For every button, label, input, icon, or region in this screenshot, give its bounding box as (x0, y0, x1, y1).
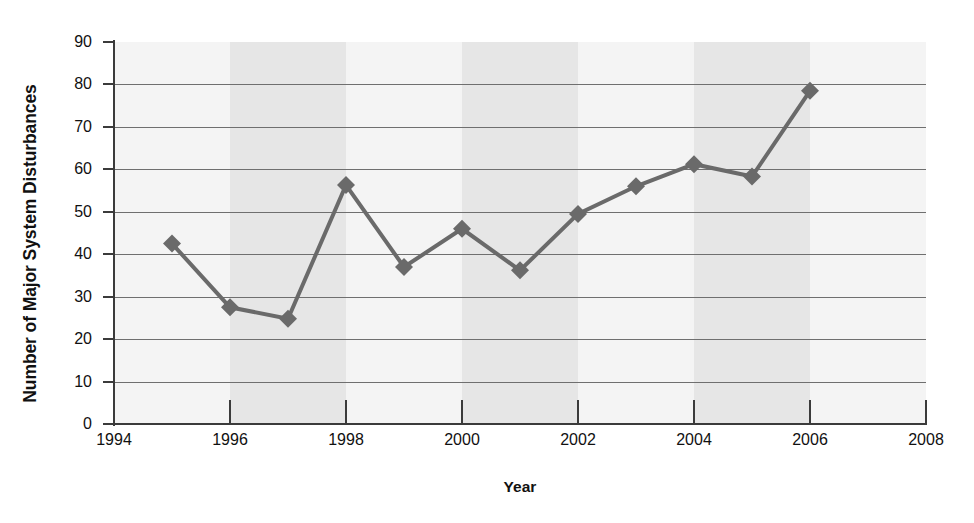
gridline (114, 297, 926, 298)
background-band (346, 42, 462, 424)
x-axis-tick (925, 400, 927, 425)
y-axis-tick (103, 338, 115, 340)
y-axis-tick (103, 83, 115, 85)
y-axis-tick-label: 50 (46, 204, 92, 220)
x-axis-tick-label: 2008 (891, 432, 961, 448)
background-band (810, 42, 926, 424)
gridline (114, 339, 926, 340)
y-axis-tick-label: 40 (46, 246, 92, 262)
y-axis-title: Number of Major System Disturbances (20, 44, 41, 444)
x-axis-tick-label: 2004 (659, 432, 729, 448)
x-axis-tick-label: 1996 (195, 432, 265, 448)
plot-area (114, 42, 926, 424)
x-axis-tick-label: 1998 (311, 432, 381, 448)
y-axis-tick (103, 381, 115, 383)
y-axis-tick (103, 211, 115, 213)
background-band (694, 42, 810, 424)
y-axis-tick-label: 90 (46, 34, 92, 50)
y-axis-tick-label: 70 (46, 119, 92, 135)
y-axis-tick (103, 296, 115, 298)
y-axis-tick-label: 10 (46, 374, 92, 390)
y-axis-tick (103, 168, 115, 170)
background-band (230, 42, 346, 424)
y-axis-tick (103, 41, 115, 43)
x-axis-tick-label: 1994 (79, 432, 149, 448)
y-axis-tick-label: 80 (46, 76, 92, 92)
x-axis-tick (229, 400, 231, 425)
gridline (114, 127, 926, 128)
x-axis-line (113, 423, 927, 425)
x-axis-tick (345, 400, 347, 425)
gridline (114, 382, 926, 383)
y-axis-tick-label: 0 (46, 416, 92, 432)
background-band (578, 42, 694, 424)
x-axis-title: Year (114, 478, 926, 496)
x-axis-tick (113, 400, 115, 425)
background-band (114, 42, 230, 424)
x-axis-tick (577, 400, 579, 425)
y-axis-tick-label: 20 (46, 331, 92, 347)
y-axis-tick (103, 126, 115, 128)
y-axis-tick-label: 30 (46, 289, 92, 305)
x-axis-tick-label: 2006 (775, 432, 845, 448)
y-axis-tick-label: 60 (46, 161, 92, 177)
background-band (462, 42, 578, 424)
gridline (114, 84, 926, 85)
line-chart-figure: Number of Major System Disturbances 0102… (0, 0, 974, 523)
x-axis-tick (461, 400, 463, 425)
y-axis-line (113, 40, 115, 426)
gridline (114, 169, 926, 170)
x-axis-tick (693, 400, 695, 425)
gridline (114, 212, 926, 213)
x-axis-tick-label: 2002 (543, 432, 613, 448)
gridline (114, 254, 926, 255)
x-axis-tick-label: 2000 (427, 432, 497, 448)
x-axis-tick (809, 400, 811, 425)
y-axis-tick (103, 253, 115, 255)
